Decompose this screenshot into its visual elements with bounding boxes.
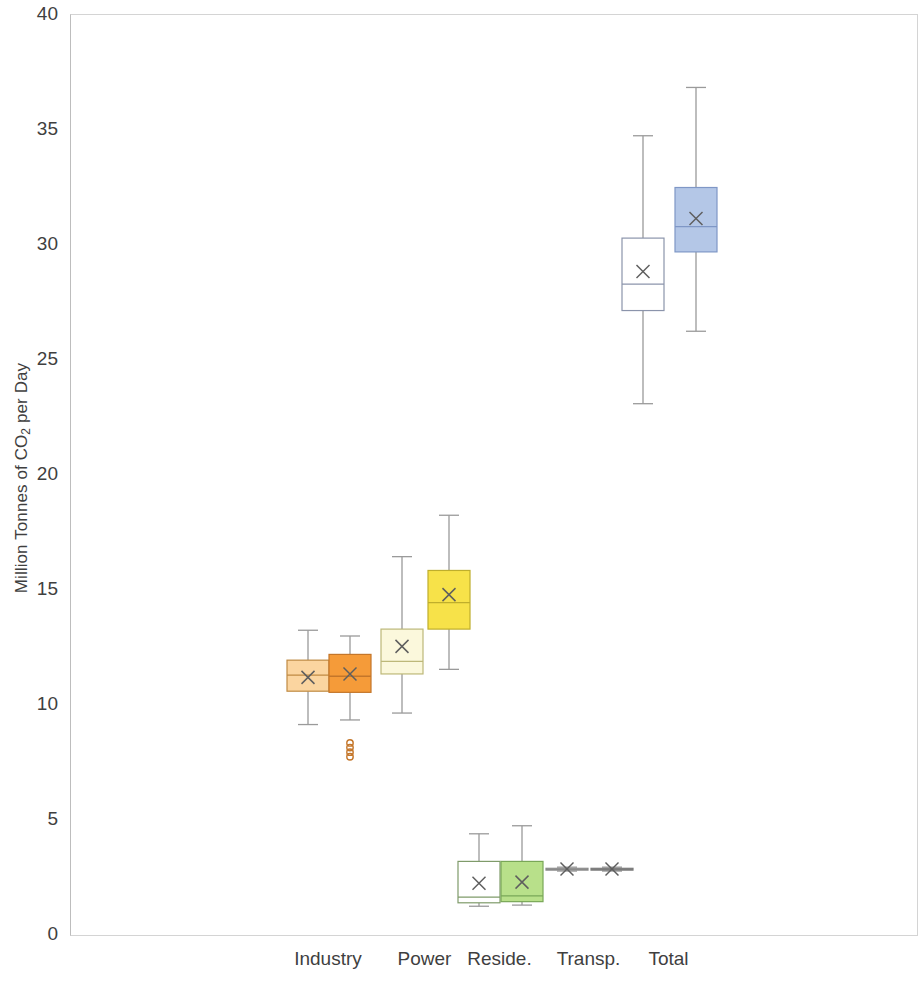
y-axis-tick-0: 0 — [8, 923, 58, 945]
box-plot-industry-s2 — [329, 636, 371, 760]
box-plot-power-s2 — [428, 515, 470, 669]
box-body — [428, 570, 470, 629]
x-axis-label-industry: Industry — [294, 948, 362, 970]
y-axis-tick-25: 25 — [8, 348, 58, 370]
x-axis-tick-labels: IndustryPowerReside.Transp.Total — [70, 948, 918, 983]
box-plot-total-s1 — [622, 136, 664, 404]
y-axis-tick-labels: 0510152025303540 — [0, 0, 58, 983]
y-axis-tick-40: 40 — [8, 3, 58, 25]
y-axis-tick-15: 15 — [8, 578, 58, 600]
y-axis-tick-30: 30 — [8, 233, 58, 255]
box-plot-reside-s1 — [458, 834, 500, 906]
y-axis-tick-35: 35 — [8, 118, 58, 140]
box-plot-chart: Million Tonnes of CO2 per Day 0510152025… — [0, 0, 921, 983]
box-plot-power-s1 — [381, 557, 423, 713]
box-plot-transp-s2 — [591, 862, 633, 875]
box-body — [622, 238, 664, 310]
y-axis-tick-20: 20 — [8, 463, 58, 485]
box-plot-reside-s2 — [501, 826, 543, 905]
box-plot-transp-s1 — [546, 862, 588, 875]
box-body — [675, 188, 717, 252]
y-axis-tick-5: 5 — [8, 808, 58, 830]
x-axis-label-transp: Transp. — [557, 948, 621, 970]
x-axis-label-reside: Reside. — [467, 948, 531, 970]
x-axis-label-power: Power — [398, 948, 452, 970]
box-plot-total-s2 — [675, 87, 717, 331]
plot-area — [70, 14, 918, 936]
box-plot-industry-s1 — [287, 630, 329, 724]
box-body — [381, 629, 423, 674]
box-plot-svg — [71, 15, 917, 935]
y-axis-tick-10: 10 — [8, 693, 58, 715]
outlier-point — [347, 754, 353, 760]
x-axis-label-total: Total — [648, 948, 688, 970]
